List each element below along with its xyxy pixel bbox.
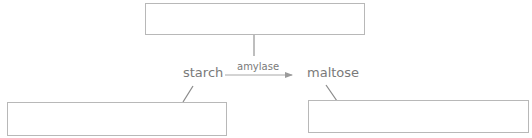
left-answer-box[interactable] (7, 102, 227, 136)
top-answer-box[interactable] (145, 3, 365, 35)
product-label: maltose (307, 65, 359, 80)
substrate-label: starch (183, 65, 223, 80)
starch-connector (183, 86, 193, 102)
right-answer-box[interactable] (308, 100, 529, 133)
enzyme-label: amylase (237, 61, 279, 72)
maltose-connector (326, 85, 337, 101)
